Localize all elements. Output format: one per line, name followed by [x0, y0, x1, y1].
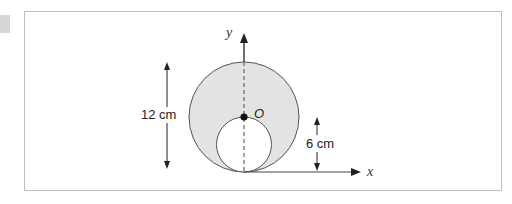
- center-point-o: [240, 113, 247, 120]
- y-axis-label: y: [224, 25, 233, 40]
- outer-diameter-label: 12 cm: [141, 107, 176, 122]
- circle-diagram: O y x 12 cm 6 cm: [0, 0, 512, 204]
- inner-diameter-label: 6 cm: [306, 136, 334, 151]
- center-point-label: O: [254, 106, 264, 121]
- x-axis-label: x: [366, 164, 374, 179]
